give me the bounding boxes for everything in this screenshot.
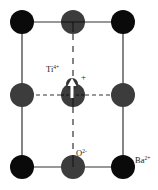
ba-ion-bottom-left <box>10 155 34 179</box>
ba-ion-bottom-right <box>111 155 135 179</box>
ti-charge-label: + <box>81 72 86 82</box>
o-ion-mid-right <box>111 83 135 107</box>
ba-ion-top-right <box>111 10 135 34</box>
barium-label: Ba2+ <box>135 155 150 166</box>
perovskite-diagram: Ti4+ + O2- Ba2+ <box>0 0 158 190</box>
oxygen-label: O2- <box>76 148 87 159</box>
ti-label: Ti4+ <box>46 64 59 75</box>
o-ion-mid-left <box>10 83 34 107</box>
ba-ion-top-left <box>10 10 34 34</box>
